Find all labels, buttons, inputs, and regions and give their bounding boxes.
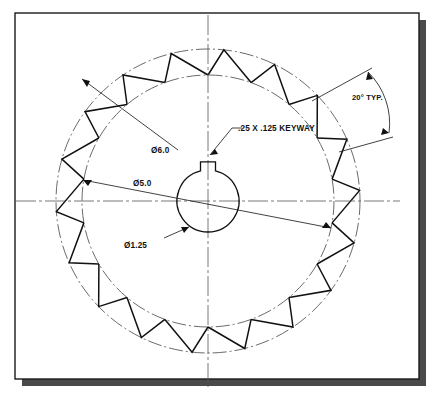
sheet-border xyxy=(15,13,419,379)
keyway-label: .25 X .125 KEYWAY xyxy=(238,124,315,133)
bore-diameter-label: Ø1.25 xyxy=(124,241,147,250)
outer-diameter-label: Ø6.0 xyxy=(151,146,170,155)
tooth-angle-label: 20° TYP. xyxy=(352,93,383,102)
root-diameter-label: Ø5.0 xyxy=(133,179,152,188)
technical-drawing-svg: .25 X .125 KEYWAY Ø6.0 Ø5.0 Ø1.25 20° TY… xyxy=(0,0,435,401)
drawing-canvas: .25 X .125 KEYWAY Ø6.0 Ø5.0 Ø1.25 20° TY… xyxy=(0,0,435,401)
